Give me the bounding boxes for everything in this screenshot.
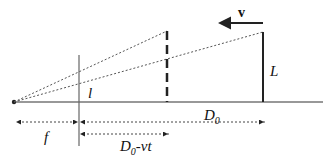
optics-diagram: v L l D0 f D0-vt bbox=[0, 0, 332, 159]
distance-D0vt-suffix: -vt bbox=[136, 138, 152, 154]
distance-D0-label: D0 bbox=[204, 108, 220, 126]
velocity-label: v bbox=[238, 6, 245, 20]
distance-D0-sub: 0 bbox=[215, 115, 220, 126]
height-label-L: L bbox=[270, 64, 278, 79]
image-label-l: l bbox=[88, 86, 92, 101]
distance-D0vt-main: D bbox=[120, 138, 131, 154]
focal-label-f: f bbox=[44, 130, 48, 145]
diagram-canvas bbox=[0, 0, 332, 159]
ray-lower bbox=[14, 32, 263, 102]
distance-D0-vt-label: D0-vt bbox=[120, 139, 152, 157]
distance-D0-main: D bbox=[204, 107, 215, 123]
